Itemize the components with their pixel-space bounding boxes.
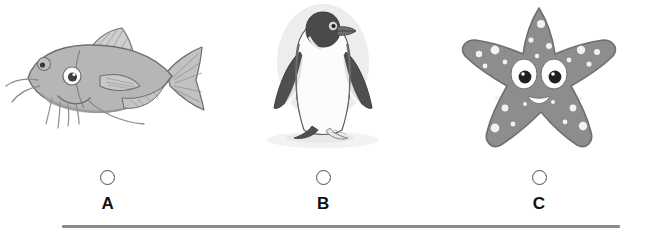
radio-option-c[interactable] <box>532 170 547 185</box>
option-label-c: C <box>533 195 546 212</box>
answer-options-row: A <box>0 0 647 215</box>
bottom-divider <box>62 225 620 228</box>
option-label-a: A <box>101 195 114 212</box>
penguin-illustration <box>216 0 431 160</box>
catfish-illustration <box>0 0 215 160</box>
answer-option-b[interactable]: B <box>216 0 431 215</box>
radio-option-b[interactable] <box>316 170 331 185</box>
answer-option-a[interactable]: A <box>0 0 215 215</box>
starfish-illustration <box>432 0 647 160</box>
radio-option-a[interactable] <box>100 170 115 185</box>
answer-option-c[interactable]: C <box>432 0 647 215</box>
multiple-choice-question: A <box>0 0 647 237</box>
option-label-b: B <box>317 195 330 212</box>
